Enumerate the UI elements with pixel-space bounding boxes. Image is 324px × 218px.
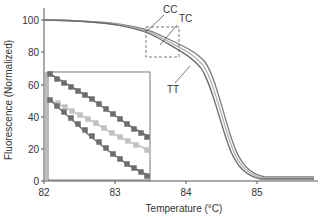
label-cc: CC xyxy=(163,4,177,15)
y-tick-label: 60 xyxy=(28,80,40,91)
y-tick-label: 0 xyxy=(33,176,39,187)
y-tick-label: 20 xyxy=(28,144,40,155)
inset-plot xyxy=(46,72,150,180)
label-tc: TC xyxy=(179,13,192,24)
x-tick-label: 82 xyxy=(38,187,50,198)
y-axis-label: Fluorescence (Normalized) xyxy=(3,40,14,160)
label-tt: TT xyxy=(167,84,179,95)
x-tick-label: 85 xyxy=(251,187,263,198)
x-axis-label: Temperature (°C) xyxy=(146,203,223,214)
x-tick-label: 83 xyxy=(109,187,121,198)
x-ticks: 82 83 84 85 xyxy=(38,181,263,198)
melt-curve-chart: 0 20 40 60 80 100 82 83 84 85 Temperatur… xyxy=(0,0,324,218)
y-tick-label: 40 xyxy=(28,112,40,123)
y-ticks: 0 20 40 60 80 100 xyxy=(22,15,44,187)
annotations: CC TC TT xyxy=(147,4,192,95)
y-tick-label: 80 xyxy=(28,47,40,58)
x-tick-label: 84 xyxy=(180,187,192,198)
y-tick-label: 100 xyxy=(22,15,39,26)
